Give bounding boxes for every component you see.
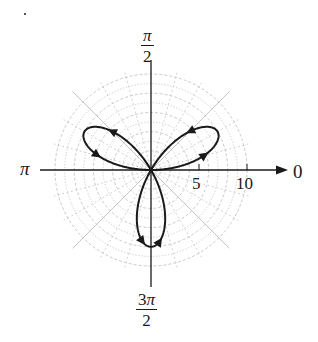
direction-arrows <box>91 125 208 248</box>
grid-spoke <box>54 144 151 170</box>
pole-point <box>149 168 154 173</box>
label-pi: π <box>20 159 30 178</box>
polar-plot <box>0 0 318 342</box>
label-half-pi-numerator: π <box>141 27 154 45</box>
label-three-half-pi: 3π 2 <box>136 291 157 329</box>
label-three-half-pi-coef: 3 <box>138 290 147 309</box>
tick-label-10: 10 <box>236 175 253 192</box>
grid-spoke <box>125 170 151 267</box>
grid-spoke <box>151 120 238 170</box>
grid-spoke <box>151 73 177 170</box>
stray-dot <box>24 13 26 15</box>
label-three-half-pi-sym: π <box>147 290 156 309</box>
axis-arrowhead <box>276 166 288 175</box>
label-three-half-pi-numerator: 3π <box>136 291 157 309</box>
tick-label-5: 5 <box>192 175 201 192</box>
grid-spoke <box>64 120 151 170</box>
label-half-pi: π 2 <box>141 27 154 65</box>
label-half-pi-denominator: 2 <box>143 46 152 65</box>
label-zero: 0 <box>293 162 303 181</box>
label-three-half-pi-denominator: 2 <box>142 310 151 329</box>
